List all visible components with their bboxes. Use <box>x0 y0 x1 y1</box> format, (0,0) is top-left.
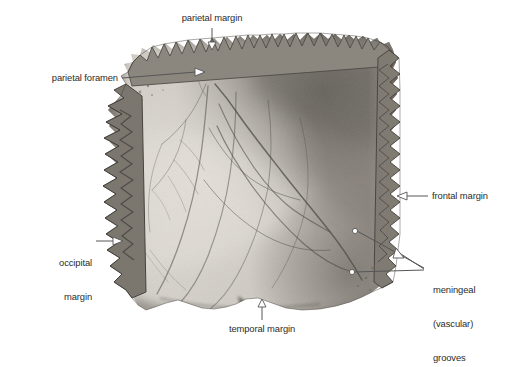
parietal-bone-specimen <box>100 30 410 320</box>
label-parietal-foramen: parietal foramen <box>8 72 118 83</box>
label-frontal-margin: frontal margin <box>432 190 506 201</box>
leader-endpoint-groove-upper <box>352 228 357 233</box>
label-meningeal-line2: (vascular) <box>433 318 507 329</box>
label-temporal-margin: temporal margin <box>212 323 312 334</box>
label-occipital-margin-line2: margin <box>20 291 92 302</box>
label-meningeal-line3: grooves <box>433 352 507 363</box>
label-occipital-margin-line1: occipital <box>20 257 92 268</box>
label-occipital-margin: occipital margin <box>20 235 92 313</box>
label-meningeal-line1: meningeal <box>433 284 507 295</box>
leader-endpoint-groove-lower <box>349 269 354 274</box>
label-meningeal-grooves: meningeal (vascular) grooves <box>433 262 507 367</box>
label-parietal-margin: parietal margin <box>164 12 260 23</box>
